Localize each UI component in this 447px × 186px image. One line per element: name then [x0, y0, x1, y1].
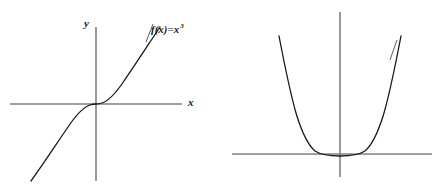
quartic-plot-svg: [224, 0, 447, 186]
cubic-plot-svg: [0, 0, 224, 186]
graph-panel-cubic: y x f(x)=x3: [0, 0, 224, 186]
graph-panel-quartic: y x f(x)=x4: [224, 0, 447, 186]
cubic-x-axis-label: x: [188, 97, 194, 108]
quartic-label-leader-line: [390, 40, 397, 60]
cubic-variable: x: [174, 23, 180, 35]
function-graphs-figure: y x f(x)=x3 y x f(x)=x4: [0, 0, 447, 186]
cubic-function-label: f(x)=x3: [151, 23, 184, 35]
cubic-y-axis-label: y: [84, 18, 89, 29]
cubic-exponent: 3: [180, 22, 184, 30]
cubic-function-arg: (x): [155, 23, 168, 35]
